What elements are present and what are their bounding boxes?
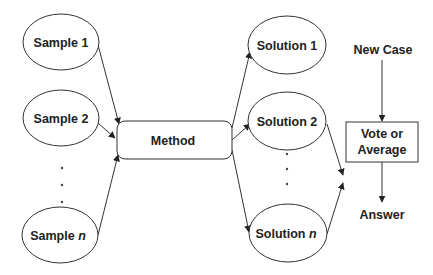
diagram-canvas: Sample 1 Sample 2 Sample n Method Soluti… (0, 0, 433, 275)
vote-label-line2: Average (358, 143, 407, 157)
sample-label: Sample 1 (34, 36, 89, 50)
edge-solution2-vote (327, 124, 343, 175)
solution-node-2: Solution 2 (248, 92, 326, 150)
solution-index: n (309, 227, 317, 241)
solution-label: Solution 1 (257, 39, 317, 53)
edge-solutionn-vote (327, 183, 343, 234)
ensemble-diagram: Sample 1 Sample 2 Sample n Method Soluti… (0, 0, 433, 275)
edge-method-solutionn (232, 150, 249, 232)
edge-method-solution2 (232, 124, 250, 140)
svg-text:Solution n: Solution n (255, 227, 316, 241)
solution-label: Solution (255, 227, 308, 241)
sample-node-1: Sample 1 (23, 14, 99, 70)
method-node: Method (117, 121, 232, 159)
answer-label: Answer (359, 208, 404, 222)
vote-label-line1: Vote or (361, 127, 403, 141)
svg-text:Solution 2: Solution 2 (257, 115, 317, 129)
solution-node-n: Solution n (249, 204, 327, 262)
svg-text:Sample n: Sample n (30, 229, 86, 243)
sample-node-n: Sample n (22, 207, 98, 263)
edge-method-solution1 (232, 52, 250, 128)
solution-label: Solution 2 (257, 115, 317, 129)
solution-node-1: Solution 1 (248, 16, 326, 74)
solution-ellipsis (286, 153, 288, 185)
method-label: Method (151, 134, 195, 148)
svg-text:Sample 2: Sample 2 (34, 112, 89, 126)
svg-text:Sample 1: Sample 1 (34, 36, 89, 50)
new-case-label: New Case (353, 43, 412, 57)
edge-samplen-method (98, 155, 118, 235)
sample-ellipsis (61, 167, 63, 203)
vote-node: Vote or Average (346, 122, 418, 162)
sample-index: n (78, 229, 86, 243)
edge-sample1-method (98, 45, 119, 124)
sample-label: Sample 2 (34, 112, 89, 126)
sample-label: Sample (30, 229, 78, 243)
sample-node-2: Sample 2 (23, 90, 99, 146)
svg-text:Solution 1: Solution 1 (257, 39, 317, 53)
edge-sample2-method (98, 123, 115, 138)
